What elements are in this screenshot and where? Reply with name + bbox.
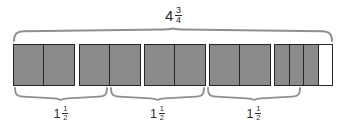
group-fraction: 1 2: [62, 105, 68, 122]
unit-group: [13, 44, 75, 86]
total-denominator: 4: [175, 16, 182, 25]
group-brace: [14, 88, 108, 101]
group-whole-number: 1: [247, 108, 254, 121]
group-size-label: 1 1 2: [110, 104, 205, 123]
fraction-bar-diagram: 4 3 4: [0, 0, 343, 127]
group-mixed-number: 1 1 2: [150, 106, 165, 123]
unit-group: [79, 44, 141, 86]
group-numerator: 1: [159, 105, 165, 113]
group-whole-number: 1: [150, 108, 157, 121]
group-size-label: 1 1 2: [14, 104, 108, 123]
group-mixed-number: 1 1 2: [247, 106, 262, 123]
total-brace: [13, 28, 333, 42]
unit-group-partial: [274, 44, 333, 86]
group-brace: [110, 88, 205, 101]
unit-cell: [240, 45, 270, 85]
unit-group: [144, 44, 206, 86]
unit-cell: [80, 45, 110, 85]
unit-cell: [175, 45, 205, 85]
total-value-label: 4 3 4: [0, 6, 343, 26]
quarter-cell-unshaded: [319, 45, 333, 85]
total-numerator: 3: [175, 6, 182, 15]
total-fraction: 3 4: [175, 6, 182, 26]
unit-cell: [110, 45, 140, 85]
quarter-cell: [275, 45, 290, 85]
group-whole-number: 1: [54, 108, 61, 121]
total-whole-number: 4: [165, 8, 174, 23]
group-denominator: 2: [62, 114, 68, 122]
group-fraction: 1 2: [159, 105, 165, 122]
unit-cell: [210, 45, 240, 85]
group-mixed-number: 1 1 2: [54, 106, 69, 123]
group-numerator: 1: [255, 105, 261, 113]
unit-cell: [145, 45, 175, 85]
unit-strip: [13, 44, 333, 86]
group-brace: [207, 88, 301, 101]
total-mixed-number: 4 3 4: [165, 6, 182, 26]
quarter-cell: [304, 45, 319, 85]
unit-cell: [44, 45, 74, 85]
unit-cell: [14, 45, 44, 85]
group-denominator: 2: [159, 114, 165, 122]
quarter-cell: [290, 45, 305, 85]
group-fraction: 1 2: [255, 105, 261, 122]
unit-group: [209, 44, 271, 86]
group-size-label: 1 1 2: [207, 104, 301, 123]
group-numerator: 1: [62, 105, 68, 113]
group-denominator: 2: [255, 114, 261, 122]
